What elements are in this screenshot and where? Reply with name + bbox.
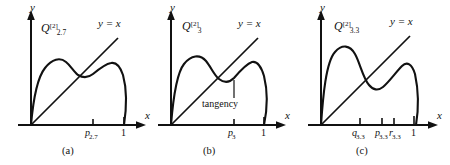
x-axis-b — [158, 121, 286, 129]
panel-b: y x Q[2]3 y = x tangency p3 1 (b) — [140, 0, 292, 165]
panel-c-plot — [290, 0, 450, 165]
x-axis-label-c: x — [437, 110, 442, 121]
diagonal-line-b — [171, 38, 258, 125]
curve-q-3 — [171, 56, 267, 125]
x-axis-arrowhead — [428, 121, 438, 129]
figure-three-panel-second-iterate: y x Q[2]2.7 y = x p2.7 1 (a) y x Q[2]3 — [0, 0, 450, 165]
curve-label-sub-a: 2.7 — [57, 28, 66, 37]
tick-label-one-b: 1 — [261, 127, 266, 138]
y-axis-label-b: y — [170, 2, 175, 13]
tick-label-q-c: q3.3 — [352, 127, 366, 138]
curve-q-3-3 — [321, 47, 418, 125]
curve-label-c: Q[2]3.3 — [334, 20, 360, 32]
curve-label-sub-c: 3.3 — [350, 26, 359, 35]
tick-label-p-b: p3 — [228, 127, 237, 138]
panel-a: y x Q[2]2.7 y = x p2.7 1 (a) — [0, 0, 152, 165]
tick-label-one-c: 1 — [411, 127, 416, 138]
diagonal-label-c: y = x — [390, 16, 413, 27]
x-axis-c — [308, 121, 438, 129]
x-axis-arrowhead — [276, 121, 286, 129]
tick-label-r-c: r3.3 — [389, 127, 402, 138]
curve-label-base-a: Q — [41, 21, 50, 35]
y-axis-label-c: y — [320, 2, 325, 13]
caption-a: (a) — [62, 145, 74, 156]
curve-label-sub-b: 3 — [198, 26, 202, 35]
curve-label-a: Q[2]2.7 — [41, 22, 67, 34]
tick-label-one-a: 1 — [121, 127, 126, 138]
y-axis-label-a: y — [30, 2, 35, 13]
curve-label-base-b: Q — [182, 19, 191, 33]
y-axis-c — [317, 10, 325, 125]
panel-c: y x Q[2]3.3 y = x q3.3 p3.3 r3.3 1 (c) — [290, 0, 450, 165]
curve-q-2-7 — [31, 59, 126, 125]
curve-label-base-c: Q — [334, 19, 343, 33]
x-axis-a — [18, 121, 146, 129]
diagonal-label-b: y = x — [238, 18, 261, 29]
panel-b-plot — [140, 0, 292, 165]
diagonal-line-a — [31, 38, 118, 125]
tangency-annotation: tangency — [202, 98, 238, 109]
curve-label-b: Q[2]3 — [182, 20, 203, 32]
diagonal-label-a: y = x — [98, 18, 121, 29]
panel-a-plot — [0, 0, 152, 165]
caption-b: (b) — [203, 145, 215, 156]
caption-c: (c) — [356, 145, 368, 156]
tick-label-p-a: p2.7 — [85, 127, 99, 138]
tick-label-p-c: p3.3 — [375, 127, 389, 138]
